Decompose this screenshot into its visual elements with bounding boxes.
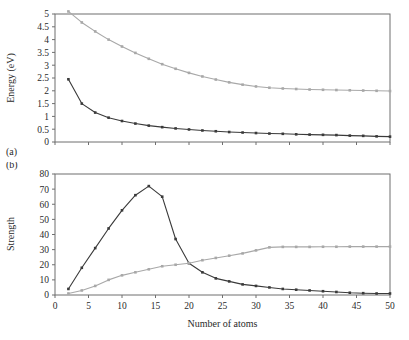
y-tick-label-a: 3: [44, 61, 49, 71]
data-point-rising-curve: [81, 289, 84, 292]
data-point-lower-curve: [188, 128, 191, 131]
data-point-lower-curve: [148, 124, 151, 127]
data-point-peaked-curve: [94, 247, 97, 250]
data-point-lower-curve: [255, 132, 258, 135]
y-tick-label-a: 0.5: [37, 125, 49, 135]
y-tick-label-a: 0: [44, 137, 49, 147]
data-point-upper-curve: [335, 89, 338, 92]
x-tick-label-b: 20: [184, 301, 194, 311]
data-point-lower-curve: [201, 129, 204, 132]
data-point-lower-curve: [121, 120, 124, 123]
y-tick-label-b: 50: [40, 215, 50, 225]
data-point-upper-curve: [389, 90, 392, 93]
data-point-upper-curve: [188, 72, 191, 75]
data-point-peaked-curve: [375, 292, 378, 295]
data-point-lower-curve: [134, 122, 137, 125]
data-point-rising-curve: [215, 257, 218, 260]
x-tick-label-b: 5: [86, 301, 91, 311]
data-point-peaked-curve: [201, 271, 204, 274]
y-tick-label-a: 4: [44, 35, 49, 45]
y-tick-label-a: 5: [44, 9, 49, 19]
x-tick-label-b: 50: [385, 301, 395, 311]
data-point-lower-curve: [228, 131, 231, 134]
y-tick-label-b: 40: [40, 230, 50, 240]
data-point-upper-curve: [255, 85, 258, 88]
panel-a: 00.511.522.533.544.55Energy (eV)(a): [0, 0, 409, 162]
data-point-rising-curve: [134, 271, 137, 274]
data-point-upper-curve: [121, 45, 124, 48]
y-tick-label-b: 0: [44, 290, 49, 300]
data-point-rising-curve: [282, 246, 285, 249]
data-point-lower-curve: [241, 131, 244, 134]
data-point-lower-curve: [308, 133, 311, 136]
data-point-upper-curve: [161, 63, 164, 66]
data-point-rising-curve: [67, 292, 70, 295]
data-point-peaked-curve: [148, 185, 151, 188]
plot-frame-a: [55, 14, 390, 142]
data-point-lower-curve: [161, 126, 164, 129]
y-tick-label-b: 80: [40, 169, 50, 179]
data-point-rising-curve: [174, 263, 177, 266]
series-line-upper-curve: [68, 11, 390, 91]
data-point-upper-curve: [107, 38, 110, 41]
data-point-upper-curve: [375, 90, 378, 93]
data-point-upper-curve: [81, 21, 84, 24]
data-point-rising-curve: [94, 285, 97, 288]
data-point-peaked-curve: [295, 288, 298, 291]
data-point-lower-curve: [349, 134, 352, 137]
data-point-lower-curve: [335, 134, 338, 137]
data-point-upper-curve: [67, 10, 70, 13]
data-point-lower-curve: [67, 78, 70, 81]
data-point-upper-curve: [295, 88, 298, 91]
data-point-peaked-curve: [308, 289, 311, 292]
data-point-peaked-curve: [134, 194, 137, 197]
data-point-peaked-curve: [322, 290, 325, 293]
data-point-upper-curve: [308, 88, 311, 91]
data-point-upper-curve: [228, 81, 231, 84]
x-tick-label-b: 25: [218, 301, 228, 311]
data-point-peaked-curve: [228, 280, 231, 283]
data-point-rising-curve: [188, 262, 191, 265]
panel-b: 0102030405060708005101520253035404550Str…: [0, 162, 409, 340]
series-line-lower-curve: [68, 79, 390, 136]
data-point-rising-curve: [228, 254, 231, 257]
x-tick-label-b: 15: [151, 301, 161, 311]
data-point-rising-curve: [148, 268, 151, 271]
y-axis-title-a: Energy (eV): [5, 53, 17, 103]
x-tick-label-b: 10: [117, 301, 127, 311]
y-axis-title-b: Strength: [5, 217, 16, 251]
data-point-lower-curve: [322, 134, 325, 137]
data-point-peaked-curve: [174, 238, 177, 241]
y-tick-label-a: 3.5: [37, 48, 49, 58]
data-point-rising-curve: [107, 279, 110, 282]
data-point-lower-curve: [107, 116, 110, 119]
y-tick-label-a: 1.5: [37, 99, 49, 109]
data-point-peaked-curve: [67, 288, 70, 291]
panel-label-b: (b): [6, 162, 18, 171]
data-point-lower-curve: [268, 132, 271, 135]
data-point-upper-curve: [282, 87, 285, 90]
data-point-rising-curve: [308, 246, 311, 249]
x-axis-title-b: Number of atoms: [188, 318, 258, 329]
data-point-peaked-curve: [161, 195, 164, 198]
data-point-upper-curve: [174, 67, 177, 70]
data-point-rising-curve: [349, 245, 352, 248]
y-tick-label-a: 1: [44, 112, 49, 122]
y-tick-label-a: 2.5: [37, 73, 49, 83]
data-point-upper-curve: [215, 78, 218, 81]
data-point-rising-curve: [121, 274, 124, 277]
data-point-rising-curve: [241, 252, 244, 255]
series-line-rising-curve: [68, 247, 390, 294]
data-point-upper-curve: [349, 89, 352, 92]
y-tick-label-b: 60: [40, 200, 50, 210]
data-point-peaked-curve: [362, 292, 365, 295]
data-point-upper-curve: [241, 83, 244, 86]
data-point-rising-curve: [322, 245, 325, 248]
y-tick-label-b: 70: [40, 185, 50, 195]
data-point-upper-curve: [322, 88, 325, 91]
data-point-peaked-curve: [268, 286, 271, 289]
data-point-rising-curve: [389, 245, 392, 248]
data-point-peaked-curve: [389, 292, 392, 295]
plot-frame-b: [55, 174, 390, 295]
data-point-peaked-curve: [282, 288, 285, 291]
